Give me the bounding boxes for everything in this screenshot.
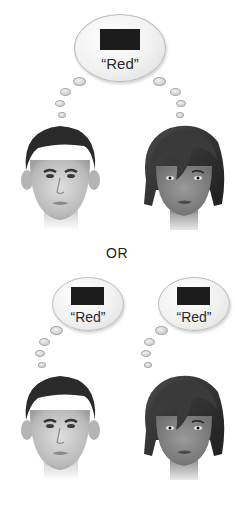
thought-dot [155,326,168,335]
thought-dot [39,338,50,346]
woman-face-bottom [140,370,226,482]
word-label: “Red” [53,309,123,325]
shared-thought-bubble: “Red” [74,14,166,82]
color-swatch [71,287,104,305]
or-separator: OR [106,245,128,261]
thought-dot [38,362,46,368]
color-swatch [100,29,140,50]
thought-dot [35,350,45,357]
woman-thought-bubble: “Red” [158,277,230,331]
man-face-bottom [18,370,102,482]
man-face-top [18,120,102,232]
thought-dot [170,88,181,96]
thought-dot [153,77,166,86]
thought-dot [73,77,86,86]
woman-face-top [140,120,226,232]
thought-dot [176,112,184,118]
thought-dot [58,112,66,118]
thought-dot [55,100,65,107]
word-label: “Red” [159,309,229,325]
thought-dot [144,362,152,368]
word-label: “Red” [75,55,165,72]
thought-dot [60,88,71,96]
color-swatch [177,287,210,305]
thought-dot [144,338,155,346]
man-thought-bubble: “Red” [52,277,124,331]
thought-dot [50,326,63,335]
thought-dot [141,350,151,357]
thought-dot [176,100,186,107]
